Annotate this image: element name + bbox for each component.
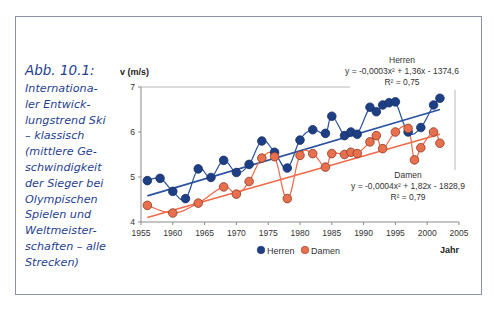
x-tick-label: 1995: [386, 228, 405, 238]
herren-data-point: [232, 168, 241, 177]
herren-data-point: [207, 173, 216, 182]
x-tick-label: 2000: [418, 228, 437, 238]
x-tick-label: 1970: [227, 228, 246, 238]
herren-data-point: [429, 101, 438, 110]
herren-trend-label: Herren: [389, 55, 415, 65]
x-tick-label: 1975: [259, 228, 278, 238]
y-tick-label: 4: [130, 217, 135, 227]
legend-damen-label: Damen: [311, 246, 340, 256]
herren-data-point: [169, 187, 178, 196]
damen-data-point: [219, 183, 228, 192]
legend-herren-label: Herren: [267, 246, 295, 256]
damen-data-point: [372, 131, 381, 140]
x-tick-label: 2005: [450, 228, 469, 238]
y-axis-label: v (m/s): [120, 67, 149, 77]
damen-data-point: [270, 152, 279, 161]
damen-data-point: [143, 201, 152, 210]
x-tick-label: 1960: [163, 228, 182, 238]
x-tick-label: 1980: [291, 228, 310, 238]
x-tick-label: 1965: [195, 228, 214, 238]
damen-data-point: [245, 177, 254, 186]
herren-data-point: [143, 176, 152, 185]
damen-trend-label: Damen: [394, 170, 422, 180]
damen-data-point: [169, 209, 178, 218]
damen-data-point: [436, 139, 445, 148]
damen-data-point: [194, 199, 203, 208]
damen-data-point: [429, 128, 438, 137]
herren-data-point: [219, 156, 228, 165]
damen-data-point: [378, 144, 387, 153]
herren-data-point: [321, 129, 330, 138]
y-tick-label: 7: [130, 82, 135, 92]
herren-data-point: [156, 174, 165, 183]
damen-data-point: [321, 163, 330, 172]
herren-trend-r2: R² = 0,75: [384, 77, 419, 87]
herren-trend-equation: y = -0,0003x² + 1,36x - 1374,6: [345, 66, 459, 76]
damen-data-point: [283, 194, 292, 203]
y-tick-label: 5: [130, 172, 135, 182]
damen-data-point: [391, 128, 400, 137]
herren-data-point: [258, 137, 267, 146]
damen-data-point: [328, 149, 337, 158]
damen-data-point: [417, 143, 426, 152]
herren-data-point: [296, 136, 305, 145]
damen-data-point: [296, 151, 305, 160]
herren-data-point: [245, 160, 254, 169]
herren-data-point: [417, 123, 426, 132]
x-tick-label: 1985: [322, 228, 341, 238]
herren-data-point: [283, 164, 292, 173]
damen-data-point: [258, 154, 267, 163]
herren-data-point: [391, 98, 400, 107]
herren-data-point: [308, 125, 317, 134]
damen-trend-r2: R² = 0,79: [390, 192, 425, 202]
damen-data-point: [353, 149, 362, 158]
damen-data-point: [404, 124, 413, 133]
herren-data-point: [353, 130, 362, 139]
herren-data-point: [436, 94, 445, 103]
herren-data-point: [328, 112, 337, 121]
legend-herren-marker: [257, 246, 265, 254]
damen-data-point: [232, 190, 241, 199]
x-tick-label: 1955: [132, 228, 151, 238]
x-axis-label: Jahr: [440, 245, 460, 255]
herren-data-point: [372, 107, 381, 116]
damen-data-point: [410, 156, 419, 165]
herren-data-point: [194, 165, 203, 174]
x-tick-label: 1990: [354, 228, 373, 238]
y-tick-label: 6: [130, 127, 135, 137]
damen-data-point: [308, 149, 317, 158]
damen-trend-equation: y = -0,0004x² + 1,82x - 1828,9: [351, 181, 465, 191]
legend-damen-marker: [301, 246, 309, 254]
herren-data-point: [181, 194, 190, 203]
trend-chart: 4567195519601965197019751980198519901995…: [0, 0, 494, 319]
